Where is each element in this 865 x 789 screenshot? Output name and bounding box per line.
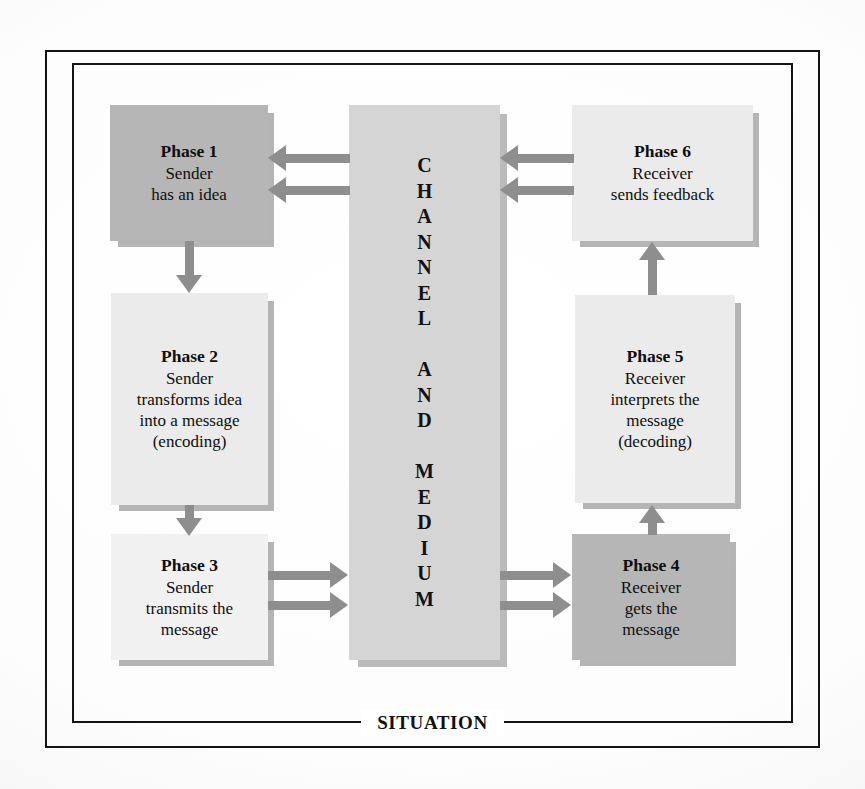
- node-phase-2[interactable]: Phase 2 Sender transforms idea into a me…: [111, 293, 268, 505]
- phase-1-line-1: Sender: [165, 163, 212, 184]
- channel-and-medium-letters: C H A N N E L A N D M E D I U M: [415, 153, 434, 612]
- arrow-head-left-icon: [500, 177, 518, 203]
- channel-letter: M: [415, 587, 434, 613]
- channel-letter: A: [415, 357, 434, 383]
- phase-2-title: Phase 2: [161, 346, 218, 367]
- arrow-head-right-icon: [553, 562, 571, 588]
- node-phase-3[interactable]: Phase 3 Sender transmits the message: [111, 534, 268, 660]
- arrow-head-left-icon: [268, 177, 286, 203]
- node-phase-1[interactable]: Phase 1 Sender has an idea: [110, 105, 268, 241]
- arrow-shaft: [518, 186, 574, 195]
- phase-5-line-1: Receiver: [625, 368, 685, 389]
- arrow-head-left-icon: [500, 145, 518, 171]
- arrow-head-right-icon: [553, 592, 571, 618]
- phase-2-line-3: into a message: [139, 410, 239, 431]
- arrow-head-up-icon: [639, 242, 665, 260]
- phase-6-title: Phase 6: [634, 141, 691, 162]
- arrow-shaft: [286, 154, 350, 163]
- phase-5-line-3: message: [626, 410, 684, 431]
- arrow-shaft: [500, 601, 554, 610]
- channel-letter: N: [415, 255, 434, 281]
- channel-letter: E: [415, 485, 434, 511]
- node-phase-6[interactable]: Phase 6 Receiver sends feedback: [572, 105, 753, 241]
- channel-letter: N: [415, 230, 434, 256]
- phase-5-line-4: (decoding): [618, 431, 692, 452]
- channel-letter: D: [415, 408, 434, 434]
- channel-letter: H: [415, 179, 434, 205]
- channel-letter: D: [415, 510, 434, 536]
- arrow-shaft: [648, 521, 657, 535]
- node-phase-5[interactable]: Phase 5 Receiver interprets the message …: [575, 295, 735, 503]
- phase-3-line-3: message: [161, 619, 219, 640]
- phase-3-line-2: transmits the: [146, 598, 233, 619]
- phase-2-line-1: Sender: [166, 368, 213, 389]
- phase-6-line-1: Receiver: [632, 163, 692, 184]
- phase-5-line-2: interprets the: [610, 389, 699, 410]
- channel-letter: M: [415, 459, 434, 485]
- phase-4-line-3: message: [622, 619, 680, 640]
- arrow-shaft: [268, 571, 331, 580]
- arrow-head-down-icon: [176, 518, 202, 536]
- phase-2-line-2: transforms idea: [137, 389, 242, 410]
- phase-5-title: Phase 5: [627, 346, 684, 367]
- node-phase-4[interactable]: Phase 4 Receiver gets the message: [572, 534, 730, 660]
- arrow-head-right-icon: [330, 562, 348, 588]
- arrow-shaft: [500, 571, 554, 580]
- channel-letter: L: [415, 306, 434, 332]
- arrow-head-down-icon: [176, 275, 202, 293]
- channel-letter: U: [415, 561, 434, 587]
- arrow-head-left-icon: [268, 145, 286, 171]
- phase-4-title: Phase 4: [623, 555, 680, 576]
- phase-3-title: Phase 3: [161, 555, 218, 576]
- arrow-head-up-icon: [639, 505, 665, 523]
- phase-4-line-2: gets the: [625, 598, 677, 619]
- channel-letter: E: [415, 281, 434, 307]
- arrow-shaft: [185, 241, 194, 277]
- channel-letter: A: [415, 204, 434, 230]
- arrow-shaft: [268, 601, 331, 610]
- channel-letter: C: [415, 153, 434, 179]
- phase-1-title: Phase 1: [161, 141, 218, 162]
- arrow-head-right-icon: [330, 592, 348, 618]
- channel-and-medium-column[interactable]: C H A N N E L A N D M E D I U M: [349, 105, 500, 660]
- channel-letter: N: [415, 383, 434, 409]
- phase-1-line-2: has an idea: [151, 184, 227, 205]
- phase-2-line-4: (encoding): [153, 431, 227, 452]
- arrow-shaft: [518, 154, 574, 163]
- phase-3-line-1: Sender: [166, 577, 213, 598]
- phase-4-line-1: Receiver: [621, 577, 681, 598]
- arrow-shaft: [286, 186, 350, 195]
- channel-letter: I: [415, 536, 434, 562]
- phase-6-line-2: sends feedback: [611, 184, 714, 205]
- diagram-stage: SITUATION C H A N N E L A N D M E D I U …: [0, 0, 865, 789]
- arrow-shaft: [648, 259, 657, 295]
